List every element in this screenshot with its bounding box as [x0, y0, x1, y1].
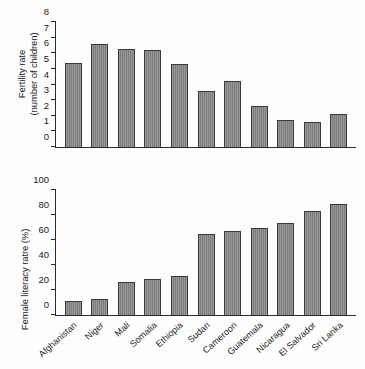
figure: Fertility rate (number of children) 0123… — [0, 0, 365, 369]
category-slot: Niger — [86, 317, 113, 369]
bar-slot — [140, 22, 167, 147]
bar — [277, 223, 294, 316]
y-axis-tick-label: 3 — [44, 84, 49, 95]
category-label: Afghanistan — [37, 320, 79, 359]
bar-slot — [166, 22, 193, 147]
bar — [144, 50, 161, 147]
category-slot: Sri Lanka — [324, 317, 351, 369]
bar-slot — [193, 22, 220, 147]
bar — [251, 106, 268, 147]
y-axis-tick-label: 60 — [38, 224, 49, 235]
bar — [91, 44, 108, 147]
bar — [304, 122, 321, 147]
bar-slot — [60, 190, 87, 315]
literacy-plot-area: 020406080100 — [55, 190, 356, 316]
y-axis-tick-label: 40 — [38, 249, 49, 260]
y-axis-tick-label: 2 — [44, 99, 49, 110]
y-axis-tick-label: 5 — [44, 52, 49, 63]
y-axis-tick-label: 20 — [38, 274, 49, 285]
bar-slot — [60, 22, 87, 147]
bar-slot — [166, 190, 193, 315]
bar — [91, 299, 108, 315]
bar — [224, 81, 241, 147]
y-axis-tick-label: 100 — [33, 174, 49, 185]
bar — [277, 120, 294, 147]
y-axis-tick-label: 4 — [44, 68, 49, 79]
bar-slot — [299, 22, 326, 147]
y-axis-tick-label: 7 — [44, 21, 49, 32]
bar-slot — [272, 190, 299, 315]
bar — [144, 279, 161, 315]
bar — [198, 91, 215, 147]
country-category-labels: AfghanistanNigerMaliSomaliaEthiopiaSudan… — [55, 317, 355, 369]
bar-slot — [193, 190, 220, 315]
bar-slot — [87, 190, 114, 315]
fertility-rate-chart: Fertility rate (number of children) 0123… — [0, 0, 365, 168]
bar-slot — [219, 22, 246, 147]
bar — [65, 63, 82, 147]
bar-slot — [113, 190, 140, 315]
bar-slot — [272, 22, 299, 147]
fertility-y-axis-label: Fertility rate (number of children) — [16, 4, 40, 144]
bar — [171, 276, 188, 315]
category-label: Niger — [83, 320, 106, 342]
bar — [65, 301, 82, 315]
bar-slot — [87, 22, 114, 147]
bar-slot — [246, 190, 273, 315]
y-axis-tick-label: 80 — [38, 199, 49, 210]
bar — [304, 211, 321, 315]
bar — [251, 228, 268, 315]
bar-slot — [299, 190, 326, 315]
bar — [118, 49, 135, 147]
y-axis-tick-label: 0 — [44, 299, 49, 310]
female-literacy-chart: Female literacy ratre (%) 020406080100 A… — [0, 168, 365, 369]
category-label: Mali — [113, 320, 132, 338]
y-axis-tick-label: 1 — [44, 115, 49, 126]
bar-slot — [246, 22, 273, 147]
fertility-plot-area: 012345678 — [55, 22, 356, 148]
literacy-bars — [56, 190, 356, 315]
bar — [171, 64, 188, 147]
bar-slot — [140, 190, 167, 315]
bar-slot — [113, 22, 140, 147]
bar — [118, 282, 135, 315]
category-slot: Afghanistan — [59, 317, 86, 369]
literacy-y-axis-label: Female literacy ratre (%) — [19, 205, 32, 355]
bar-slot — [325, 190, 352, 315]
fertility-bars — [56, 22, 356, 147]
bar — [224, 231, 241, 315]
category-slot: Ethiopia — [165, 317, 192, 369]
bar-slot — [219, 190, 246, 315]
y-axis-tick-label: 8 — [44, 6, 49, 17]
bar — [198, 234, 215, 315]
bar — [330, 204, 347, 315]
y-axis-tick-label: 6 — [44, 37, 49, 48]
bar-slot — [325, 22, 352, 147]
bar — [330, 114, 347, 147]
y-axis-tick-label: 0 — [44, 131, 49, 142]
